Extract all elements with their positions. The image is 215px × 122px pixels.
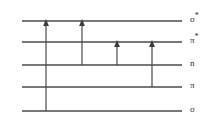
level-label-sigma: σ — [190, 105, 195, 114]
level-label-pi-star: π* — [190, 36, 199, 45]
level-label-sigma-text: σ — [190, 104, 195, 114]
level-label-n-text: n — [190, 58, 195, 68]
level-label-pi: π — [190, 81, 195, 90]
level-label-sigma-star-asterisk: * — [195, 11, 199, 20]
level-label-pi-star-asterisk: * — [195, 32, 199, 41]
mo-energy-level-diagram: σ* π* n π σ — [0, 0, 215, 122]
energy-diagram-canvas — [0, 0, 215, 122]
transition-arrow-pi-to-pi-star — [149, 40, 155, 87]
level-label-n: n — [190, 59, 195, 68]
level-label-pi-text: π — [190, 80, 195, 90]
level-label-sigma-star: σ* — [190, 15, 199, 24]
transition-arrow-n-to-pi-star — [114, 40, 120, 65]
